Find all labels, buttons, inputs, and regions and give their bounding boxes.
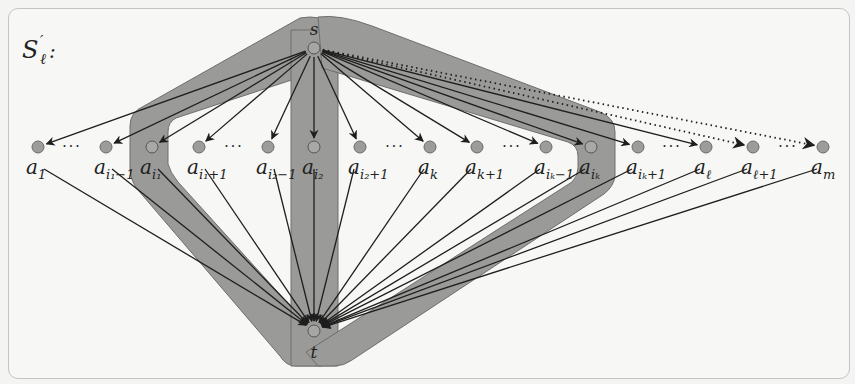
node-ai1m1 xyxy=(100,141,112,153)
edge-aik-to-t xyxy=(322,169,585,325)
source-node: s xyxy=(308,19,320,54)
node-subscript-ai1m1: i₁−1 xyxy=(106,167,135,182)
node-am xyxy=(817,141,829,153)
node-subscript-ai2: i₂ xyxy=(314,167,323,182)
node-subscript-aikm1: iₖ−1 xyxy=(546,167,574,182)
source-node-circle xyxy=(308,42,320,54)
edge-ai1m1-to-t xyxy=(112,169,307,324)
node-subscript-alp1: ℓ+1 xyxy=(753,167,778,182)
sink-node-circle xyxy=(308,325,320,337)
node-row: a1ai₁−1ai₁ai₁+1ai₂−1ai₂ai₂+1akak+1aiₖ−1a… xyxy=(26,141,835,182)
node-label-akp1: a xyxy=(465,155,477,179)
node-label-ai2p1: a xyxy=(348,155,360,179)
node-label-ai1: a xyxy=(140,155,152,179)
node-subscript-aikp1: iₖ+1 xyxy=(638,167,666,182)
flow-graph-diagram: a1ai₁−1ai₁ai₁+1ai₂−1ai₂ai₂+1akak+1aiₖ−1a… xyxy=(0,0,855,384)
node-label-ai1p1: a xyxy=(187,155,199,179)
node-akp1 xyxy=(471,141,483,153)
node-subscript-al: ℓ xyxy=(706,167,712,182)
ellipsis: ··· xyxy=(224,138,243,154)
edge-alp1-to-t xyxy=(322,169,747,327)
node-ai1p1 xyxy=(193,141,205,153)
title-subscript: ℓ xyxy=(40,50,46,68)
node-subscript-ai1: i₁ xyxy=(152,167,161,182)
node-label-aikp1: a xyxy=(626,155,638,179)
node-aikp1 xyxy=(632,141,644,153)
node-label-ai2: a xyxy=(302,155,314,179)
edge-s-to-al xyxy=(323,50,698,145)
node-subscript-aik: iₖ xyxy=(591,167,600,182)
ellipsis: ··· xyxy=(502,138,521,154)
node-label-a1: a xyxy=(26,155,38,179)
node-label-ai2m1: a xyxy=(256,155,268,179)
edge-s-to-a1 xyxy=(46,51,305,144)
ellipsis: ··· xyxy=(385,138,404,154)
node-aik xyxy=(585,141,597,153)
edge-aikp1-to-t xyxy=(322,169,632,326)
edge-s-to-ai1m1 xyxy=(114,52,306,143)
node-ai2m1 xyxy=(262,141,274,153)
node-subscript-ai2p1: i₂+1 xyxy=(360,167,389,182)
node-label-aikm1: a xyxy=(534,155,546,179)
node-subscript-ai2m1: i₂−1 xyxy=(268,167,297,182)
ellipsis: ··· xyxy=(662,138,681,154)
node-alp1 xyxy=(747,141,759,153)
title-colon: : xyxy=(49,39,56,63)
node-ai1 xyxy=(146,141,158,153)
node-subscript-ai1p1: i₁+1 xyxy=(199,167,228,182)
node-label-ak: a xyxy=(418,155,430,179)
node-subscript-akp1: k+1 xyxy=(477,167,504,182)
node-label-ai1m1: a xyxy=(94,155,106,179)
node-ai2 xyxy=(308,141,320,153)
node-subscript-am: m xyxy=(823,167,835,182)
node-label-am: a xyxy=(811,155,823,179)
ellipsis: ··· xyxy=(778,138,797,154)
node-ai2p1 xyxy=(354,141,366,153)
figure-title: S ′ ℓ : xyxy=(22,32,56,68)
node-label-aik: a xyxy=(579,155,591,179)
node-subscript-a1: 1 xyxy=(38,167,46,182)
ellipsis: ··· xyxy=(62,138,81,154)
sink-label: t xyxy=(311,342,318,362)
source-label: s xyxy=(310,19,319,39)
node-ak xyxy=(424,141,436,153)
edge-al-to-t xyxy=(322,169,700,327)
edge-s-to-aikp1 xyxy=(323,51,630,145)
node-aikm1 xyxy=(540,141,552,153)
node-subscript-ak: k xyxy=(430,167,438,182)
title-prime: ′ xyxy=(40,32,44,50)
node-label-al: a xyxy=(694,155,706,179)
node-label-alp1: a xyxy=(741,155,753,179)
title-symbol: S xyxy=(22,36,38,64)
node-al xyxy=(700,141,712,153)
node-a1 xyxy=(32,141,44,153)
